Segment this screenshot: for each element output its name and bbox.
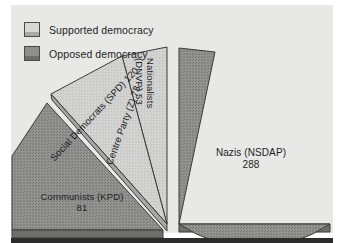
slice-label-nazis-value: 288 — [205, 159, 297, 171]
slice-depth-communists — [12, 230, 163, 238]
slice-label-communists-value: 81 — [28, 202, 136, 213]
footer-rule — [11, 238, 333, 243]
slice-group-opposed-right — [179, 48, 330, 243]
figure-root: Supported democracy Opposed democracy Na… — [0, 0, 346, 243]
legend-swatch-supported-icon — [24, 22, 40, 37]
slice-label-nazis: Nazis (NSDAP) 288 — [205, 147, 297, 171]
slice-label-nationalists-name: Nationalists — [145, 58, 156, 136]
legend: Supported democracy Opposed democracy — [24, 22, 154, 61]
slice-nationalists[interactable] — [179, 48, 215, 224]
slice-label-communists-name: Communists (KPD) — [28, 191, 136, 202]
slice-label-communists: Communists (KPD) 81 — [28, 191, 136, 213]
legend-item-supported[interactable]: Supported democracy — [24, 22, 154, 37]
legend-label-supported: Supported democracy — [49, 24, 154, 36]
legend-swatch-opposed-icon — [24, 46, 40, 61]
slice-label-nazis-name: Nazis (NSDAP) — [205, 147, 297, 159]
